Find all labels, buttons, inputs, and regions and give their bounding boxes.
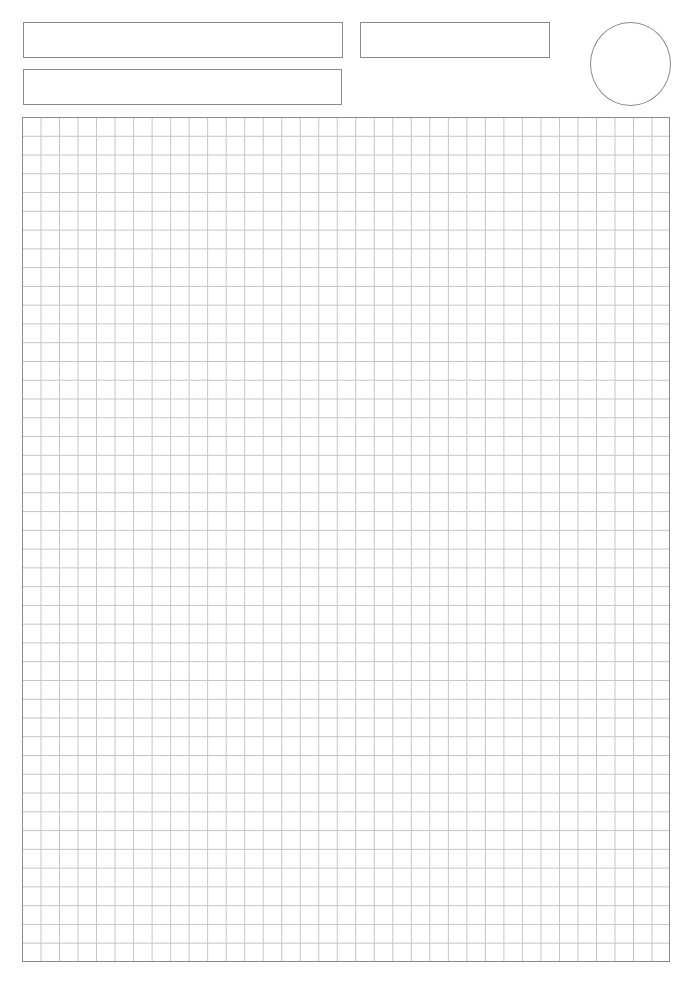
- graph-paper-grid[interactable]: [22, 117, 670, 962]
- header-field-1[interactable]: [23, 22, 343, 58]
- header-field-2[interactable]: [360, 22, 550, 58]
- header-circle[interactable]: [590, 22, 671, 106]
- header-field-3[interactable]: [23, 69, 342, 105]
